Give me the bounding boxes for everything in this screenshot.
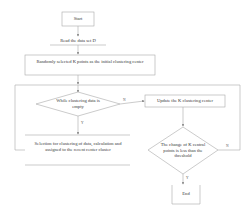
cond2-label: The change of K central points is less t… bbox=[160, 142, 206, 159]
assign-label: Selection for clustering of data, calcul… bbox=[28, 141, 128, 152]
init-box bbox=[25, 55, 155, 75]
edge-label-cond2-yes: Y bbox=[186, 176, 189, 180]
start-label: Start bbox=[62, 16, 94, 22]
edge-label-cond1-yes: Y bbox=[81, 121, 84, 125]
update-label: Update the K clustering center bbox=[146, 98, 224, 104]
init-label: Randomly selected K points as the initia… bbox=[30, 59, 150, 65]
end-label: End bbox=[172, 191, 200, 197]
read-label: Read the data set D bbox=[45, 38, 111, 44]
flowchart-canvas bbox=[0, 0, 249, 216]
cond1-label: While clustering data is empty bbox=[52, 98, 104, 109]
edge-label-cond2-no: N bbox=[226, 144, 229, 148]
edge-label-cond1-no: N bbox=[123, 98, 126, 102]
